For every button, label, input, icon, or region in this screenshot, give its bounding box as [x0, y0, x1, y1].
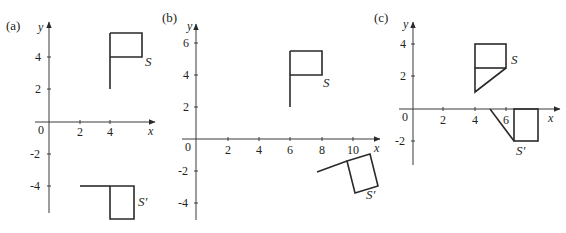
- y-tick-label: -2: [30, 147, 40, 161]
- shape-s: [475, 44, 506, 92]
- shape-s: [110, 33, 142, 89]
- panel-c: (c) y x 0 2 4 6 4 2 -2 S S′: [374, 10, 560, 165]
- shape-s: [290, 51, 322, 107]
- y-tick-label: -2: [178, 164, 188, 178]
- y-tick-label: 6: [183, 36, 189, 50]
- x-tick-label: 4: [107, 125, 113, 139]
- panel-a: (a) y x 0 2 4 4 2 -2 -4 S S′: [6, 18, 155, 219]
- origin-label: 0: [38, 123, 44, 137]
- x-tick-label: 6: [503, 113, 509, 127]
- y-tick-label: 4: [35, 50, 41, 64]
- x-tick-label: 10: [347, 143, 359, 157]
- x-tick-label: 6: [287, 143, 293, 157]
- y-tick-label: 2: [35, 82, 41, 96]
- x-tick-label: 4: [256, 143, 262, 157]
- shape-s-prime-label: S′: [366, 187, 376, 202]
- shape-s-prime-label: S′: [516, 143, 526, 158]
- panel-b: (b) y x 0 2 4 6 8 10 6 4 2 -2 -4 S: [162, 10, 380, 220]
- panel-label-b: (b): [162, 10, 177, 25]
- shape-s-prime: [80, 186, 134, 219]
- transformation-figures: (a) y x 0 2 4 4 2 -2 -4 S S′: [0, 0, 566, 233]
- shape-s-label: S: [511, 52, 518, 67]
- x-tick-label: 2: [440, 113, 446, 127]
- y-tick-label: -4: [178, 196, 188, 210]
- x-tick-label: 8: [319, 143, 325, 157]
- y-tick-label: 2: [183, 100, 189, 114]
- panel-label-c: (c): [374, 10, 388, 25]
- y-tick-label: 2: [400, 69, 406, 83]
- y-axis-label: y: [186, 19, 193, 33]
- shape-s-prime: [490, 109, 538, 141]
- y-axis-label: y: [37, 20, 44, 34]
- x-tick-label: 2: [225, 143, 231, 157]
- x-axis-label: x: [547, 111, 554, 125]
- x-axis-label: x: [373, 141, 380, 155]
- x-tick-label: 2: [77, 125, 83, 139]
- y-tick-label: 4: [183, 68, 189, 82]
- y-tick-label: -4: [30, 179, 40, 193]
- shape-s-prime-label: S′: [138, 194, 148, 209]
- shape-s-label: S: [323, 75, 330, 90]
- y-tick-label: -2: [395, 134, 405, 148]
- origin-label: 0: [185, 140, 191, 154]
- origin-label: 0: [402, 110, 408, 124]
- x-axis-label: x: [147, 124, 154, 138]
- y-axis-label: y: [402, 17, 409, 31]
- panel-label-a: (a): [6, 18, 20, 33]
- x-tick-label: 4: [472, 113, 478, 127]
- shape-s-label: S: [145, 54, 152, 69]
- y-tick-label: 4: [400, 37, 406, 51]
